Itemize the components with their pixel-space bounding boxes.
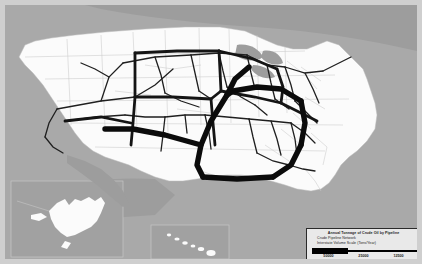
map-figure: Annual Tonnage of Crude Oil by Pipeline … (0, 0, 422, 264)
map-legend[interactable]: Annual Tonnage of Crude Oil by Pipeline … (306, 228, 417, 259)
scalebar-segment-low (384, 250, 417, 251)
map-graphic (5, 5, 417, 259)
legend-scale-label: Interstate Volume Scale (Tons/Year) (310, 241, 417, 246)
scale-value-low: 12500 (393, 254, 403, 258)
scalebar-segment-high (312, 248, 348, 254)
hawaii-inset (151, 225, 229, 259)
map-canvas[interactable]: Annual Tonnage of Crude Oil by Pipeline … (5, 5, 417, 259)
scale-value-high: 50000 (323, 254, 333, 258)
scale-value-mid: 25000 (358, 254, 368, 258)
scalebar-segment-mid (348, 250, 384, 253)
legend-scale-numbers: 50000 25000 12500 (312, 254, 415, 259)
